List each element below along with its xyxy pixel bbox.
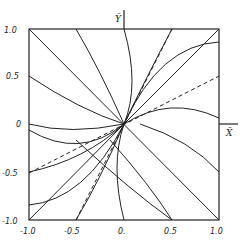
x-axis-label: X̄ (225, 127, 233, 138)
y-tick-label: 0.5 (6, 72, 19, 81)
y-tick-label: 1.0 (4, 26, 17, 35)
x-tick-label: -0.5 (64, 227, 80, 236)
y-tick-label: 0 (16, 120, 21, 129)
phase-portrait-figure: 1.0 0.5 0 -0.5 -1.0 -1.0 -0.5 0. 0.5 1.0… (0, 0, 246, 240)
x-tick-label: 0. (118, 227, 126, 236)
x-tick-label: -1.0 (20, 227, 36, 236)
y-tick-label: -0.5 (2, 169, 18, 178)
y-tick-label: -1.0 (2, 217, 18, 226)
y-axis-label: Ȳ (115, 13, 122, 24)
x-tick-label: 0.5 (164, 227, 177, 236)
x-tick-label: 1.0 (210, 227, 223, 236)
